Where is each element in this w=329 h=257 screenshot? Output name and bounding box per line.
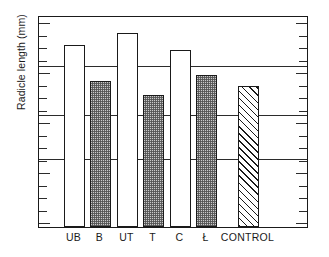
axis-tick-left-3	[39, 61, 47, 62]
x-label-control: CONTROL	[218, 231, 278, 243]
axis-tick-right-13	[299, 186, 307, 187]
axis-tick-left-12	[39, 173, 50, 174]
axis-tick-right-10	[299, 148, 307, 149]
axis-tick-right-6	[299, 98, 307, 99]
bar-ub	[64, 45, 85, 227]
bar-ut	[117, 33, 138, 227]
axis-tick-left-16	[39, 223, 50, 224]
axis-tick-left-5	[39, 86, 47, 87]
x-axis-category-labels: UBBUTTCŁCONTROL	[38, 231, 308, 249]
axis-tick-left-9	[39, 136, 47, 137]
axis-tick-left-11	[39, 161, 47, 162]
axis-tick-right-5	[299, 86, 307, 87]
axis-tick-left-7	[39, 111, 47, 112]
bar-t	[143, 95, 164, 227]
axis-tick-left-15	[39, 211, 47, 212]
axis-tick-right-1	[299, 36, 307, 37]
axis-tick-right-9	[299, 136, 307, 137]
axis-tick-right-4	[296, 73, 307, 74]
axis-tick-right-11	[299, 161, 307, 162]
bar-L	[196, 75, 217, 227]
axis-tick-right-0	[296, 23, 307, 24]
axis-tick-left-2	[39, 48, 47, 49]
bar-c	[170, 50, 191, 227]
bar-chart-figure: Radicle length (mm) UBBUTTCŁCONTROL	[0, 0, 329, 257]
axis-tick-left-1	[39, 36, 47, 37]
axis-tick-right-16	[296, 223, 307, 224]
axis-tick-right-12	[296, 173, 307, 174]
axis-tick-left-4	[39, 73, 50, 74]
axis-tick-left-14	[39, 198, 47, 199]
axis-tick-right-15	[299, 211, 307, 212]
axis-tick-left-10	[39, 148, 47, 149]
y-axis-title: Radicle length (mm)	[15, 0, 31, 129]
axis-tick-right-14	[299, 198, 307, 199]
axis-tick-left-0	[39, 23, 50, 24]
axis-tick-right-2	[299, 48, 307, 49]
axis-tick-right-3	[299, 61, 307, 62]
axis-tick-left-8	[39, 123, 50, 124]
plot-area	[38, 16, 308, 228]
bar-control	[238, 86, 259, 227]
axis-tick-left-13	[39, 186, 47, 187]
axis-tick-left-6	[39, 98, 47, 99]
axis-tick-right-8	[296, 123, 307, 124]
bar-b	[90, 81, 111, 227]
axis-tick-right-7	[299, 111, 307, 112]
